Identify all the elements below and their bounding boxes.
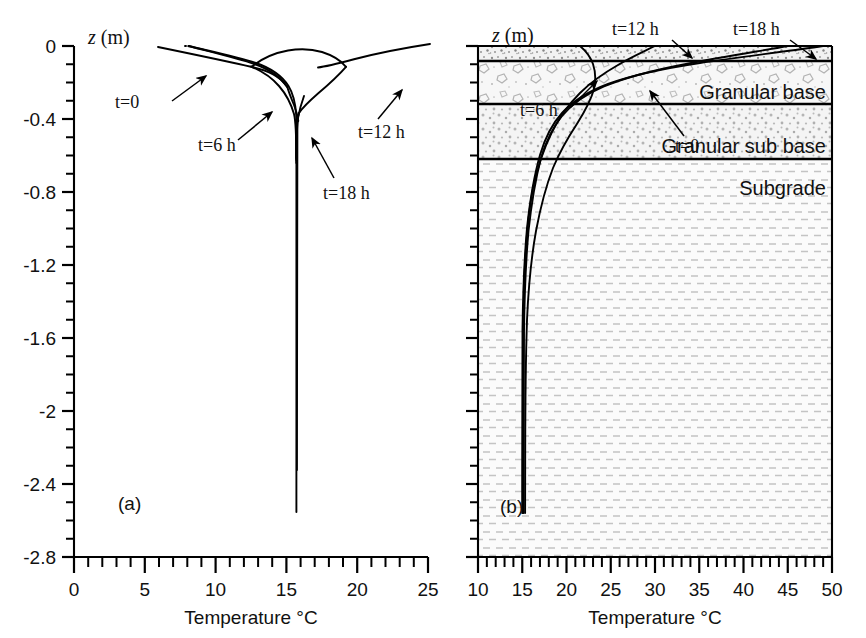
x-tick-label: 40: [733, 579, 754, 600]
label-t0: t=0: [115, 92, 139, 112]
panel-a-x-tick-labels: 0 5 10 15 20 25: [69, 579, 439, 600]
y-axis-title-unit: (m): [500, 24, 534, 47]
x-tick-label: 25: [600, 579, 621, 600]
y-tick-label: -2: [39, 401, 56, 422]
y-tick-label: 0: [45, 36, 56, 57]
x-tick-label: 45: [777, 579, 798, 600]
label-t6h: t=6 h: [198, 135, 236, 155]
layer-subgrade: [478, 159, 832, 557]
curve-a-t6h: [251, 67, 296, 159]
panel-a-x-axis-title: Temperature °C: [184, 607, 317, 628]
y-tick-label: -0.4: [23, 109, 56, 130]
layer-label-granular-base: Granular base: [699, 81, 826, 103]
y-tick-label: -1.2: [23, 255, 56, 276]
panel-a-y-ticks: [62, 46, 74, 557]
x-tick-label: 15: [276, 579, 297, 600]
panel-a: 0 -0.4 -0.8 -1.2 -1.6 -2 -2.4 -2.8: [23, 26, 438, 628]
leader-t18h: [312, 138, 334, 178]
leader-t6h: [238, 112, 272, 140]
panel-b-y-ticks: [466, 46, 478, 557]
y-axis-title-unit: (m): [96, 26, 130, 49]
curve-a-left-limb: [189, 46, 287, 87]
label-t12h: t=12 h: [612, 19, 659, 39]
label-t12h: t=12 h: [358, 122, 405, 142]
curve-a-t0-line: [158, 47, 286, 85]
y-axis-title-symbol: z: [491, 24, 500, 46]
y-axis-title-symbol: z: [87, 26, 96, 48]
x-tick-label: 0: [69, 579, 80, 600]
panel-a-x-ticks: [74, 557, 428, 573]
panel-b-x-axis-title: Temperature °C: [588, 607, 721, 628]
curve-a-inner-loop-left: [287, 86, 298, 121]
y-tick-label: -2.4: [23, 474, 56, 495]
curve-a-t12h: [318, 44, 430, 68]
leader-t12h: [378, 90, 402, 119]
label-t6h: t=6 h: [520, 100, 558, 120]
leader-t0: [172, 76, 206, 101]
panel-b-layers: [478, 46, 832, 557]
panel-b-x-ticks: [478, 557, 832, 573]
layer-label-subgrade: Subgrade: [739, 177, 826, 199]
layer-label-granular-sub-base: Granular sub base: [661, 135, 826, 157]
x-tick-label: 5: [140, 579, 151, 600]
figure-svg: 0 -0.4 -0.8 -1.2 -1.6 -2 -2.4 -2.8: [0, 0, 866, 638]
figure-container: 0 -0.4 -0.8 -1.2 -1.6 -2 -2.4 -2.8: [0, 0, 866, 638]
panel-a-y-tick-labels: 0 -0.4 -0.8 -1.2 -1.6 -2 -2.4 -2.8: [23, 36, 56, 568]
x-tick-label: 25: [417, 579, 438, 600]
x-tick-label: 35: [689, 579, 710, 600]
x-tick-label: 10: [467, 579, 488, 600]
x-tick-label: 30: [644, 579, 665, 600]
panel-a-y-axis-title: z (m): [87, 26, 130, 49]
curve-a-spine2: [297, 118, 298, 470]
panel-b-label: (b): [500, 496, 523, 517]
panel-b: 10 15 20 25 30 35 40 45 50 Temperature °…: [466, 19, 843, 628]
curve-a-lobe-right: [299, 67, 346, 113]
x-tick-label: 15: [512, 579, 533, 600]
x-tick-label: 20: [347, 579, 368, 600]
x-tick-label: 10: [205, 579, 226, 600]
label-t18h: t=18 h: [733, 19, 780, 39]
x-tick-label: 20: [556, 579, 577, 600]
x-tick-label: 50: [821, 579, 842, 600]
label-t18h: t=18 h: [323, 183, 370, 203]
panel-b-x-tick-labels: 10 15 20 25 30 35 40 45 50: [467, 579, 842, 600]
panel-b-y-axis-title: z (m): [491, 24, 534, 47]
y-tick-label: -2.8: [23, 547, 56, 568]
panel-a-label: (a): [118, 493, 141, 514]
panel-a-annotations: t=0 t=6 h t=12 h t=18 h: [115, 76, 405, 203]
y-tick-label: -0.8: [23, 182, 56, 203]
y-tick-label: -1.6: [23, 328, 56, 349]
